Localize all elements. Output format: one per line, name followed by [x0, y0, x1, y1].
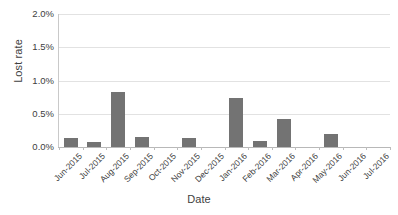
x-axis-tick [366, 147, 367, 150]
bar [229, 98, 243, 147]
lost-rate-bar-chart: Lost rate 0.0%0.5%1.0%1.5%2.0% Jun-2015J… [0, 0, 398, 215]
x-axis-title: Date [0, 193, 398, 205]
bar [111, 92, 125, 147]
x-axis-tick [130, 147, 131, 150]
bar [135, 137, 149, 147]
y-axis-tick-label: 1.0% [18, 76, 54, 86]
x-axis-tick [319, 147, 320, 150]
x-axis-tick [272, 147, 273, 150]
x-axis-tick [295, 147, 296, 150]
plot-area [59, 14, 390, 147]
x-axis-tick [225, 147, 226, 150]
bar [64, 138, 78, 147]
x-axis-tick [201, 147, 202, 150]
y-axis-tick-label: 1.5% [18, 42, 54, 52]
x-axis-tick-labels: Jun-2015Jul-2015Aug-2015Sep-2015Oct-2015… [59, 151, 398, 191]
x-axis-tick [106, 147, 107, 150]
y-axis-tick-label: 0.0% [18, 142, 54, 152]
y-axis-tick-label: 2.0% [18, 9, 54, 19]
x-axis-tick [59, 147, 60, 150]
x-axis-tick [177, 147, 178, 150]
bar [277, 119, 291, 147]
bar-series [59, 14, 390, 147]
x-axis-tick [343, 147, 344, 150]
x-axis-tick [83, 147, 84, 150]
y-axis-tick-label: 0.5% [18, 109, 54, 119]
bar [324, 134, 338, 147]
x-axis-tick [390, 147, 391, 150]
x-axis-tick [248, 147, 249, 150]
x-axis-tick [154, 147, 155, 150]
bar [182, 138, 196, 147]
